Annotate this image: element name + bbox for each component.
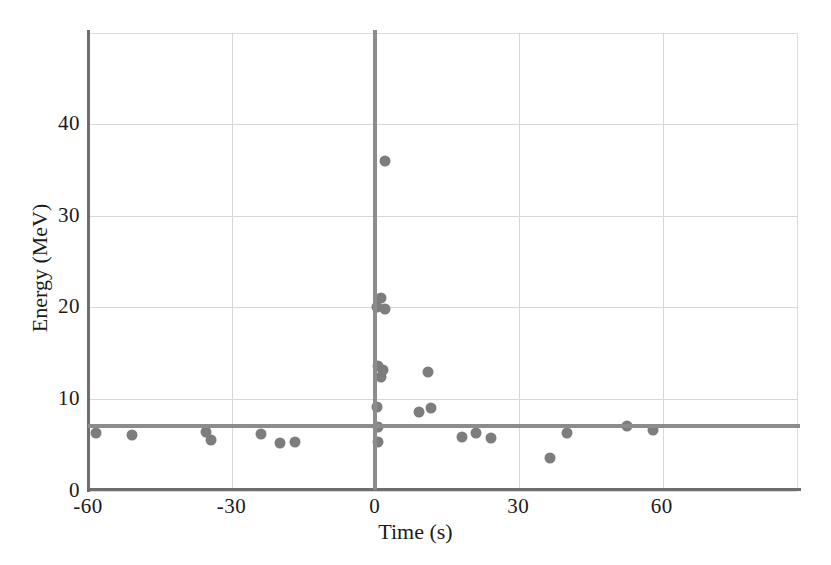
scatter-point xyxy=(275,438,286,449)
x-tick-label: 60 xyxy=(651,494,673,519)
vertical-reference-line xyxy=(373,30,377,490)
scatter-point xyxy=(456,431,467,442)
gridline-horizontal xyxy=(89,216,797,217)
gridline-vertical xyxy=(663,34,664,489)
y-axis-line xyxy=(87,30,90,492)
x-tick-label: 0 xyxy=(369,494,380,519)
plot-area xyxy=(88,33,798,490)
gridline-vertical xyxy=(519,34,520,489)
scatter-point xyxy=(423,366,434,377)
x-tick-label: -30 xyxy=(217,494,247,519)
x-axis-title: Time (s) xyxy=(0,519,831,545)
gridline-horizontal xyxy=(89,491,797,492)
gridline-horizontal xyxy=(89,124,797,125)
chart-page: 010203040 -60-3003060 Energy (MeV) Time … xyxy=(0,0,831,565)
scatter-point xyxy=(425,403,436,414)
scatter-point xyxy=(205,434,216,445)
scatter-point xyxy=(562,428,573,439)
scatter-point xyxy=(289,437,300,448)
scatter-point xyxy=(127,430,138,441)
scatter-point xyxy=(545,452,556,463)
scatter-point xyxy=(380,304,391,315)
scatter-point xyxy=(91,428,102,439)
gridline-horizontal xyxy=(89,307,797,308)
x-tick-label: 30 xyxy=(507,494,529,519)
x-axis-line xyxy=(87,488,801,491)
gridline-vertical xyxy=(232,34,233,489)
scatter-point xyxy=(380,155,391,166)
y-tick-label: 40 xyxy=(40,110,80,135)
y-axis-title: Energy (MeV) xyxy=(27,138,53,398)
scatter-point xyxy=(485,432,496,443)
gridline-horizontal xyxy=(89,399,797,400)
scatter-point xyxy=(256,429,267,440)
scatter-point xyxy=(471,428,482,439)
horizontal-reference-line xyxy=(88,424,800,428)
x-tick-label: -60 xyxy=(73,494,103,519)
scatter-point xyxy=(413,407,424,418)
